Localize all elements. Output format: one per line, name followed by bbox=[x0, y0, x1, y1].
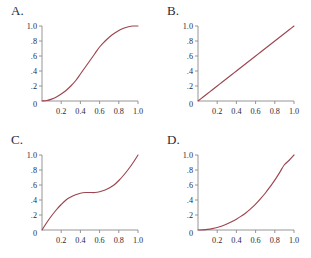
y-tick-label: .2 bbox=[31, 82, 37, 91]
panel-a-plot: .2.4.6.81.00.20.40.60.81.00 bbox=[0, 0, 155, 129]
y-tick-label: .4 bbox=[31, 196, 37, 205]
y-tick-label: .4 bbox=[187, 196, 193, 205]
origin-label: 0 bbox=[33, 229, 37, 238]
x-tick-label: 0.2 bbox=[56, 236, 66, 245]
x-tick-label: 0.6 bbox=[94, 107, 104, 116]
panel-c: C. .2.4.6.81.00.20.40.60.81.00 bbox=[0, 129, 155, 258]
y-tick-label: .4 bbox=[31, 67, 37, 76]
y-tick-label: .8 bbox=[31, 166, 37, 175]
y-tick-label: .2 bbox=[187, 211, 193, 220]
x-tick-label: 0.4 bbox=[231, 236, 241, 245]
y-tick-label: 1.0 bbox=[183, 151, 193, 160]
y-tick-label: 1.0 bbox=[27, 151, 37, 160]
x-tick-label: 0.2 bbox=[212, 236, 222, 245]
panel-c-plot: .2.4.6.81.00.20.40.60.81.00 bbox=[0, 129, 155, 258]
x-tick-label: 0.6 bbox=[250, 107, 260, 116]
x-tick-label: 0.4 bbox=[75, 236, 85, 245]
multi-panel-figure: A. .2.4.6.81.00.20.40.60.81.00 B. .2.4.6… bbox=[0, 0, 311, 258]
x-tick-label: 0.6 bbox=[94, 236, 104, 245]
origin-label: 0 bbox=[33, 100, 37, 109]
x-tick-label: 0.8 bbox=[114, 107, 124, 116]
y-tick-label: .6 bbox=[31, 181, 37, 190]
x-tick-label: 0.4 bbox=[231, 107, 241, 116]
y-tick-label: .6 bbox=[187, 52, 193, 61]
data-curve bbox=[198, 155, 294, 230]
data-curve bbox=[42, 155, 138, 230]
y-tick-label: .8 bbox=[187, 37, 193, 46]
x-tick-label: 1.0 bbox=[289, 236, 299, 245]
origin-label: 0 bbox=[189, 100, 193, 109]
y-tick-label: .8 bbox=[31, 37, 37, 46]
panel-d-plot: .2.4.6.81.00.20.40.60.81.00 bbox=[156, 129, 311, 258]
panel-a: A. .2.4.6.81.00.20.40.60.81.00 bbox=[0, 0, 155, 129]
x-tick-label: 1.0 bbox=[133, 236, 143, 245]
y-tick-label: .6 bbox=[31, 52, 37, 61]
y-tick-label: .4 bbox=[187, 67, 193, 76]
x-tick-label: 0.8 bbox=[270, 107, 280, 116]
y-tick-label: 1.0 bbox=[183, 22, 193, 31]
panel-b-plot: .2.4.6.81.00.20.40.60.81.00 bbox=[156, 0, 311, 129]
x-tick-label: 0.4 bbox=[75, 107, 85, 116]
x-tick-label: 0.2 bbox=[56, 107, 66, 116]
origin-label: 0 bbox=[189, 229, 193, 238]
x-tick-label: 0.8 bbox=[114, 236, 124, 245]
y-tick-label: 1.0 bbox=[27, 22, 37, 31]
x-tick-label: 0.2 bbox=[212, 107, 222, 116]
data-curve bbox=[42, 26, 138, 101]
x-tick-label: 1.0 bbox=[289, 107, 299, 116]
panel-d: D. .2.4.6.81.00.20.40.60.81.00 bbox=[156, 129, 311, 258]
x-tick-label: 0.6 bbox=[250, 236, 260, 245]
y-tick-label: .8 bbox=[187, 166, 193, 175]
x-tick-label: 1.0 bbox=[133, 107, 143, 116]
y-tick-label: .2 bbox=[187, 82, 193, 91]
y-tick-label: .6 bbox=[187, 181, 193, 190]
data-curve bbox=[198, 26, 294, 101]
x-tick-label: 0.8 bbox=[270, 236, 280, 245]
y-tick-label: .2 bbox=[31, 211, 37, 220]
panel-b: B. .2.4.6.81.00.20.40.60.81.00 bbox=[156, 0, 311, 129]
